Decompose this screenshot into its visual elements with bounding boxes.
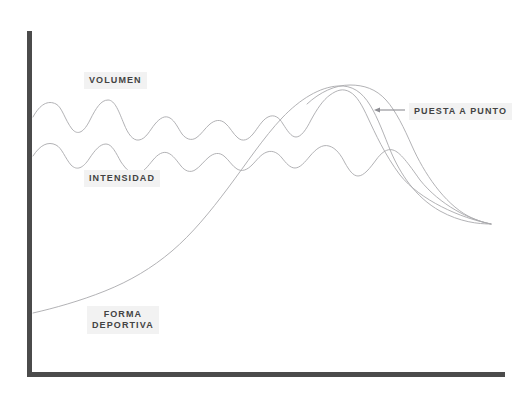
chart-figure: VOLUMEN INTENSIDAD FORMA DEPORTIVA PUEST…: [0, 0, 529, 404]
series-label-puesta-a-punto: PUESTA A PUNTO: [409, 103, 512, 120]
series-label-forma-deportiva: FORMA DEPORTIVA: [87, 306, 159, 334]
puesta-a-punto-arrow-icon: [374, 107, 380, 112]
x-axis: [27, 372, 505, 377]
series-label-intensidad: INTENSIDAD: [84, 170, 160, 187]
chart-plot-area: [0, 0, 529, 404]
y-axis: [27, 31, 32, 377]
series-label-volumen: VOLUMEN: [84, 72, 147, 89]
